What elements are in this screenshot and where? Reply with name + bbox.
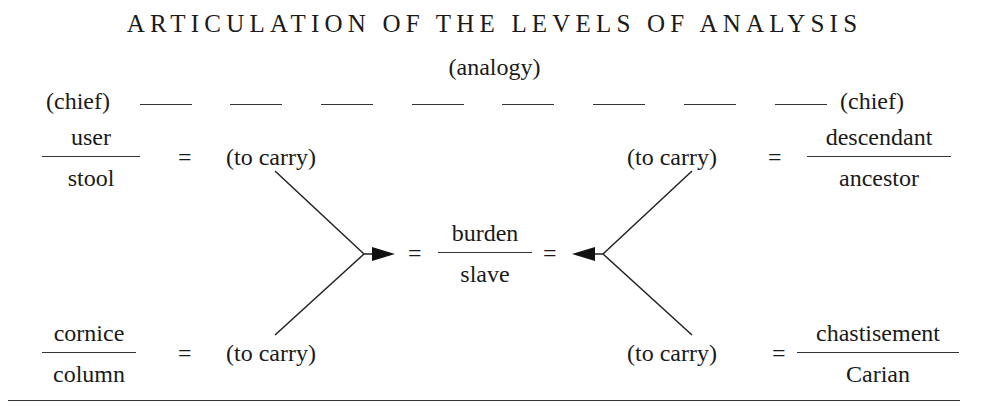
arrow-left-icon [572,247,595,261]
connector-lines [0,0,989,416]
arrow-right-icon [372,247,395,261]
bottom-rule [8,400,960,401]
